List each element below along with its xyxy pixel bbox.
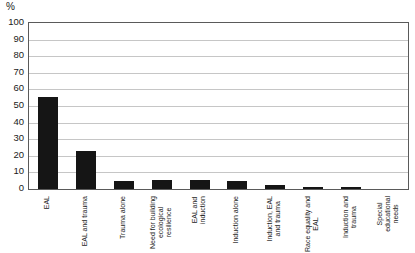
bar (341, 187, 361, 189)
gridline (29, 73, 408, 74)
y-tick-label: 0 (0, 183, 24, 193)
bar (265, 185, 285, 189)
y-tick-label: 10 (0, 166, 24, 176)
gridline (29, 139, 408, 140)
y-tick-label: 20 (0, 150, 24, 160)
bar (114, 181, 134, 189)
y-tick-label: 30 (0, 133, 24, 143)
x-category-label: Induction, EALand trauma (266, 196, 282, 242)
y-tick-label: 90 (0, 34, 24, 44)
gridline (29, 106, 408, 107)
y-tick-label: 70 (0, 67, 24, 77)
y-tick-label: 100 (0, 17, 24, 27)
bar-chart: % 0102030405060708090100 EALEAL and trau… (0, 0, 415, 253)
y-axis-unit-label: % (6, 1, 15, 12)
x-category-label: Trauma alone (119, 196, 127, 239)
bar (227, 181, 247, 189)
y-tick-label: 40 (0, 117, 24, 127)
gridline (29, 56, 408, 57)
bar (152, 180, 172, 189)
y-tick-label: 50 (0, 100, 24, 110)
x-category-label: Specialeducationalneeds (376, 196, 400, 232)
gridline (29, 40, 408, 41)
plot-area (28, 22, 409, 190)
x-category-label: Need for buildingecologicalresilience (149, 196, 173, 249)
x-category-label: Induction alone (232, 196, 240, 243)
x-category-label: EAL andinduction (191, 196, 207, 224)
x-category-label: EAL and trauma (81, 196, 89, 246)
x-category-label: Induction andtrauma (342, 196, 358, 238)
bar (38, 97, 58, 189)
bar (190, 180, 210, 189)
gridline (29, 89, 408, 90)
bar (76, 151, 96, 189)
y-tick-label: 80 (0, 50, 24, 60)
gridline (29, 123, 408, 124)
x-category-label: EAL (43, 196, 51, 209)
bar (303, 187, 323, 189)
x-category-label: Race equality andEAL (304, 196, 320, 252)
y-tick-label: 60 (0, 83, 24, 93)
